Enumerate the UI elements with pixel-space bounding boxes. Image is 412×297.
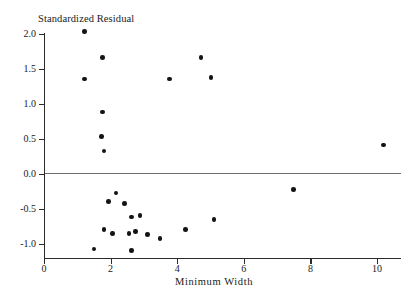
x-tick-label: 8 (298, 264, 322, 274)
data-point (99, 134, 104, 139)
data-point (138, 213, 143, 218)
data-point (212, 217, 217, 222)
data-point (102, 227, 107, 232)
data-point (102, 149, 107, 154)
y-tick-mark (39, 139, 44, 140)
data-point (129, 248, 134, 253)
x-tick-label: 0 (32, 264, 56, 274)
data-point (199, 55, 204, 60)
y-axis-line (44, 33, 45, 259)
y-tick-mark (39, 244, 44, 245)
y-tick-label: 2.0 (2, 29, 36, 39)
y-tick-label: -1.0 (2, 239, 36, 249)
data-point (209, 75, 214, 80)
data-point (110, 231, 115, 236)
x-axis-title: Minimum Width (0, 276, 412, 287)
data-point (145, 232, 150, 237)
data-point (122, 201, 127, 206)
x-tick-label: 4 (165, 264, 189, 274)
x-axis-line (44, 258, 401, 259)
y-tick-label: 0.0 (2, 169, 36, 179)
x-tick-label: 2 (99, 264, 123, 274)
x-tick-label: 10 (365, 264, 389, 274)
data-point (129, 215, 134, 220)
x-tick-label: 6 (232, 264, 256, 274)
y-tick-label: 1.5 (2, 64, 36, 74)
data-point (82, 29, 87, 34)
x-axis-title-text: Minimum Width (175, 276, 253, 287)
data-point (82, 77, 87, 82)
data-point (291, 187, 296, 192)
y-tick-mark (39, 34, 44, 35)
zero-reference-line (45, 173, 401, 174)
data-point (106, 199, 111, 204)
y-tick-label: -0.5 (2, 204, 36, 214)
y-tick-label: 1.0 (2, 99, 36, 109)
data-point (167, 77, 172, 82)
scatter-plot: Standardized Residual 2.01.51.00.50.0-0.… (0, 0, 412, 297)
data-point (158, 236, 163, 241)
data-point (100, 55, 105, 60)
y-tick-label: 0.5 (2, 134, 36, 144)
y-tick-mark (39, 209, 44, 210)
data-point (92, 247, 97, 252)
data-point (133, 229, 138, 234)
data-point (114, 191, 119, 196)
y-tick-mark (39, 69, 44, 70)
data-point (100, 110, 105, 115)
y-tick-mark (39, 104, 44, 105)
data-point (183, 227, 188, 232)
data-point (127, 231, 132, 236)
y-tick-mark (39, 174, 44, 175)
plot-title: Standardized Residual (38, 13, 134, 24)
data-point (381, 143, 386, 148)
